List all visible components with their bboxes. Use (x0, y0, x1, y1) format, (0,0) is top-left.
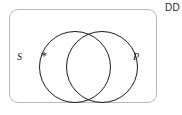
corner-label: DD (165, 2, 180, 14)
set-label-s: S (17, 51, 22, 62)
venn-diagram-figure: DD S P * (0, 0, 182, 115)
set-label-p: P (133, 51, 139, 62)
asterisk-icon: * (41, 50, 47, 62)
set-circle-p (66, 31, 138, 103)
